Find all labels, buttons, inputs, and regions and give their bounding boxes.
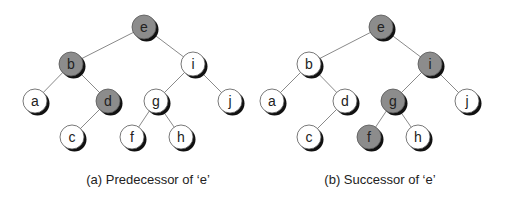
tree-successor: ebiadgjcfh xyxy=(260,15,482,152)
node-label: g xyxy=(389,93,397,109)
node-b: b xyxy=(297,52,324,79)
node-f: f xyxy=(120,125,147,152)
node-a: a xyxy=(23,89,50,116)
node-i: i xyxy=(181,52,208,79)
node-label: a xyxy=(31,93,39,109)
node-h: h xyxy=(169,125,196,152)
node-label: j xyxy=(227,93,231,109)
node-c: c xyxy=(60,125,87,152)
node-d: d xyxy=(333,89,360,116)
node-c: c xyxy=(297,125,324,152)
node-label: d xyxy=(104,93,112,109)
node-e: e xyxy=(132,15,159,42)
node-e: e xyxy=(369,15,396,42)
node-label: i xyxy=(428,56,431,72)
tree-predecessor: ebiadgjcfh xyxy=(23,15,245,152)
node-i: i xyxy=(418,52,445,79)
node-d: d xyxy=(96,89,123,116)
caption-predecessor: (a) Predecessor of ‘e’ xyxy=(86,172,210,187)
node-b: b xyxy=(59,52,86,79)
node-f: f xyxy=(357,125,384,152)
node-label: b xyxy=(305,56,313,72)
node-label: h xyxy=(414,129,422,145)
node-label: h xyxy=(177,129,185,145)
node-h: h xyxy=(406,125,433,152)
node-label: f xyxy=(367,129,371,145)
node-label: g xyxy=(152,93,160,109)
node-label: c xyxy=(306,129,313,145)
caption-successor: (b) Successor of ‘e’ xyxy=(324,172,435,187)
node-label: j xyxy=(464,93,468,109)
node-g: g xyxy=(144,89,171,116)
node-j: j xyxy=(455,89,482,116)
node-label: i xyxy=(191,56,194,72)
node-j: j xyxy=(218,89,245,116)
node-label: d xyxy=(341,93,349,109)
node-a: a xyxy=(260,89,287,116)
node-label: a xyxy=(268,93,276,109)
node-label: e xyxy=(377,19,385,35)
node-label: b xyxy=(67,56,75,72)
node-g: g xyxy=(381,89,408,116)
node-label: f xyxy=(130,129,134,145)
node-label: e xyxy=(140,19,148,35)
node-label: c xyxy=(69,129,76,145)
